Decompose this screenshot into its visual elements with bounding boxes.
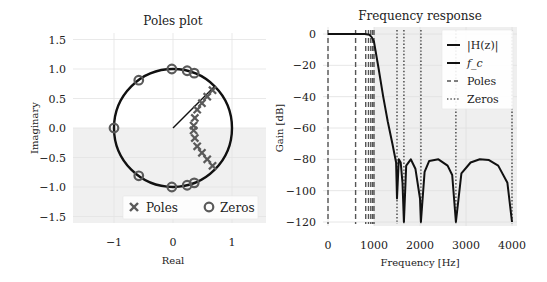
- poles-legend: Poles Zeros: [123, 196, 258, 219]
- legend-poles-label: Poles: [467, 75, 497, 88]
- freq-x-axis-label: Frequency [Hz]: [380, 257, 459, 268]
- freq-plot-title: Frequency response: [358, 9, 482, 23]
- legend-fc-label: f_c: [466, 57, 483, 70]
- svg-text:0: 0: [325, 239, 332, 252]
- poles-plot-title: Poles plot: [143, 14, 202, 28]
- freq-y-axis-label: Gain [dB]: [274, 104, 285, 152]
- svg-text:−20: −20: [293, 59, 316, 72]
- legend-zeros-label: Zeros: [467, 93, 499, 106]
- freq-legend: |H(z)| f_c Poles Zeros: [442, 30, 513, 109]
- svg-text:−40: −40: [293, 91, 316, 104]
- svg-text:1: 1: [229, 236, 236, 249]
- svg-text:2000: 2000: [406, 239, 434, 252]
- svg-text:0.0: 0.0: [49, 122, 67, 135]
- svg-text:−60: −60: [293, 122, 316, 135]
- svg-text:−120: −120: [286, 216, 316, 229]
- frequency-response-plot: Frequency response 0−20−40−60−80−100−120…: [274, 9, 526, 268]
- svg-text:4000: 4000: [498, 239, 526, 252]
- poles-plot: Poles plot 1.51.00.50.0−0.5−1.0−1.5 −101…: [29, 14, 266, 266]
- svg-text:1.5: 1.5: [49, 34, 67, 47]
- poles-y-axis-label: Imaginary: [29, 102, 40, 154]
- svg-text:−80: −80: [293, 153, 316, 166]
- svg-text:−1.0: −1.0: [39, 181, 66, 194]
- svg-text:1000: 1000: [360, 239, 388, 252]
- svg-text:3000: 3000: [452, 239, 480, 252]
- svg-text:1.0: 1.0: [49, 63, 67, 76]
- freq-y-tick-labels: 0−20−40−60−80−100−120: [286, 28, 316, 229]
- figure: Poles plot 1.51.00.50.0−0.5−1.0−1.5 −101…: [0, 0, 547, 282]
- svg-text:0: 0: [170, 236, 177, 249]
- freq-x-tick-labels: 01000200030004000: [325, 239, 527, 252]
- svg-text:−1: −1: [106, 236, 122, 249]
- legend-hz-label: |H(z)|: [467, 39, 498, 53]
- svg-text:0: 0: [309, 28, 316, 41]
- svg-text:−1.5: −1.5: [39, 211, 66, 224]
- poles-y-tick-labels: 1.51.00.50.0−0.5−1.0−1.5: [39, 34, 66, 224]
- legend-zeros-label: Zeros: [220, 201, 255, 215]
- poles-x-tick-labels: −101: [106, 236, 236, 249]
- svg-text:0.5: 0.5: [49, 93, 67, 106]
- poles-x-axis-label: Real: [162, 255, 185, 266]
- svg-text:−100: −100: [286, 185, 316, 198]
- svg-text:−0.5: −0.5: [39, 152, 66, 165]
- legend-poles-label: Poles: [146, 201, 178, 215]
